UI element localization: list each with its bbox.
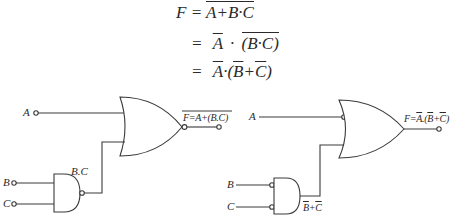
nor-gate-left [120, 97, 182, 156]
nand-output-bubble [80, 191, 85, 196]
wire-and-to-or [300, 145, 344, 196]
input-a-terminal-left [34, 111, 38, 115]
label-output-left: F=A+(B.C) [183, 112, 228, 123]
input-b-terminal-left [12, 181, 16, 185]
output-expr: A+(B.C) [195, 112, 228, 123]
label-input-c-right: C [227, 200, 234, 212]
label-input-c-left: C [3, 197, 10, 209]
wire-nand-to-nor [84, 142, 125, 193]
label-input-a-right: A [249, 110, 256, 122]
nand-gate-left [54, 174, 80, 212]
and-out-c-bar: C [315, 202, 321, 213]
label-input-a-left: A [23, 106, 30, 118]
label-nand-output: B.C [71, 165, 88, 177]
label-and-output: B+C [303, 202, 322, 213]
out-prefix: F= [404, 113, 416, 124]
label-output-right: F=A.(B+C) [404, 113, 449, 124]
label-input-b-left: B [3, 176, 10, 188]
label-input-b-right: B [227, 178, 234, 190]
output-terminal-left [217, 125, 221, 129]
output-terminal-right [437, 127, 441, 131]
out-close: ) [446, 113, 449, 124]
output-prefix: F= [183, 112, 195, 123]
or-gate-right [339, 100, 404, 158]
input-c-terminal-left [12, 202, 16, 206]
nor-output-bubble [182, 125, 187, 130]
and-gate-right [274, 178, 300, 214]
